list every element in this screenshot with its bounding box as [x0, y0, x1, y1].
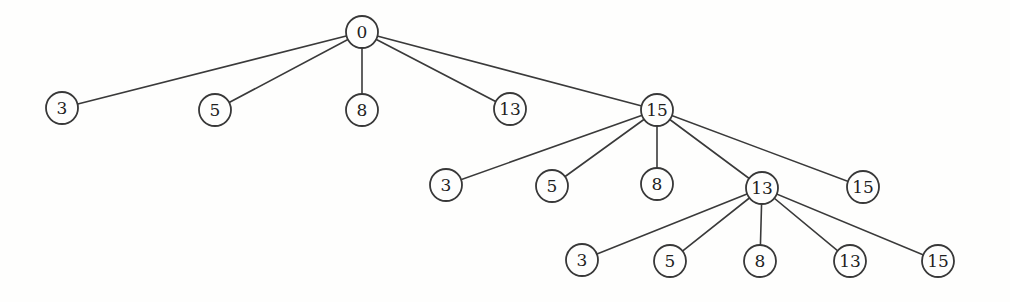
- tree-node-b1: 3: [430, 169, 462, 201]
- node-label: 13: [751, 178, 773, 198]
- node-label: 0: [357, 22, 368, 42]
- node-label: 5: [665, 251, 676, 271]
- tree-edge-root-a2: [215, 32, 362, 110]
- tree-edge-root-a4: [362, 32, 510, 109]
- node-label: 8: [357, 100, 368, 120]
- node-label: 15: [646, 100, 668, 120]
- search-tree-diagram: 0358131535813153581315: [0, 0, 1010, 302]
- node-label: 3: [577, 250, 588, 270]
- tree-node-c4: 13: [834, 245, 866, 277]
- node-label: 8: [755, 251, 766, 271]
- tree-node-root: 0: [346, 16, 378, 48]
- tree-node-b5: 15: [847, 171, 879, 203]
- node-label: 15: [852, 177, 874, 197]
- tree-diagram-canvas: 0358131535813153581315: [0, 0, 1010, 302]
- tree-node-a2: 5: [199, 94, 231, 126]
- tree-node-a3: 8: [346, 94, 378, 126]
- tree-node-c3: 8: [744, 245, 776, 277]
- tree-node-b4: 13: [746, 172, 778, 204]
- node-label: 13: [499, 99, 521, 119]
- tree-node-a1: 3: [46, 92, 78, 124]
- tree-edge-a5-b2: [552, 110, 657, 186]
- tree-edges: [62, 32, 938, 261]
- tree-node-a4: 13: [494, 93, 526, 125]
- tree-edge-b4-c4: [762, 188, 850, 261]
- node-label: 3: [57, 98, 68, 118]
- node-label: 13: [839, 251, 861, 271]
- tree-node-c2: 5: [654, 245, 686, 277]
- node-label: 15: [927, 251, 949, 271]
- node-label: 5: [547, 176, 558, 196]
- tree-node-c1: 3: [566, 244, 598, 276]
- tree-node-b3: 8: [641, 168, 673, 200]
- node-label: 5: [210, 100, 221, 120]
- tree-node-c5: 15: [922, 245, 954, 277]
- node-label: 8: [652, 174, 663, 194]
- tree-edge-a5-b4: [657, 110, 762, 188]
- node-label: 3: [441, 175, 452, 195]
- tree-node-a5: 15: [641, 94, 673, 126]
- tree-node-b2: 5: [536, 170, 568, 202]
